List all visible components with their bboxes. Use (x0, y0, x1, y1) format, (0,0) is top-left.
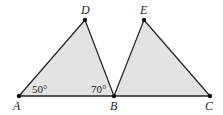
label-a: A (12, 99, 21, 113)
label-c: C (205, 99, 214, 113)
point-a (17, 94, 21, 98)
point-d (83, 18, 87, 22)
label-e: E (139, 3, 148, 17)
point-b (112, 94, 116, 98)
diagram-svg: A B C D E 50° 70° (0, 0, 223, 115)
point-c (208, 94, 212, 98)
label-d: D (80, 3, 90, 17)
triangle-bce (114, 20, 210, 96)
angle-label-a: 50° (32, 83, 47, 95)
label-b: B (110, 99, 118, 113)
angle-label-b: 70° (91, 83, 106, 95)
geometry-diagram: A B C D E 50° 70° (0, 0, 223, 115)
point-e (142, 18, 146, 22)
